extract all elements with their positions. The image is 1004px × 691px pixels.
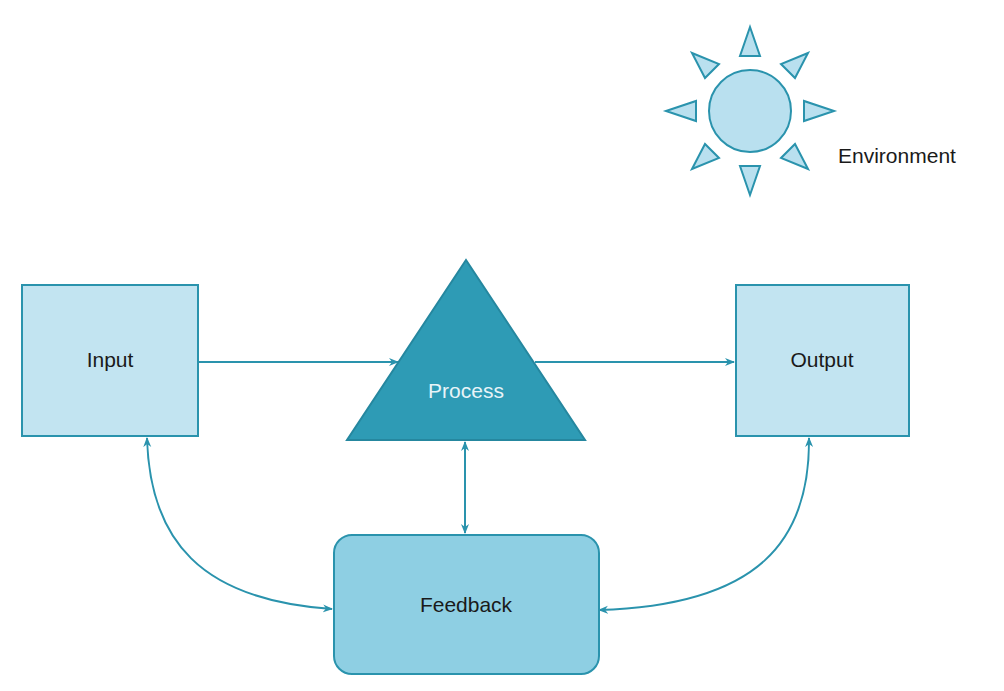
system-diagram: Environment Input Process Output Feedbac… [0, 0, 1004, 691]
environment-label: Environment [838, 144, 956, 167]
edge-input-feedback [147, 438, 332, 609]
sun-icon [666, 27, 834, 195]
edge-output-feedback [599, 438, 809, 610]
process-label: Process [428, 379, 504, 402]
input-label: Input [87, 348, 134, 371]
output-label: Output [790, 348, 853, 371]
feedback-label: Feedback [420, 593, 513, 616]
feedback-node: Feedback [334, 535, 599, 674]
process-node: Process [347, 260, 585, 440]
input-node: Input [22, 285, 198, 436]
output-node: Output [736, 285, 909, 436]
